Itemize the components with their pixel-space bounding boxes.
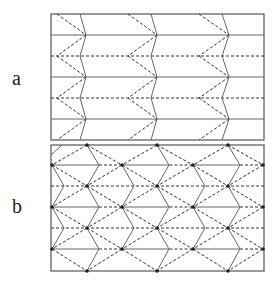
vertex-node <box>226 184 230 188</box>
valley-diagonal-crease <box>87 165 122 186</box>
mountain-chevron-crease <box>157 165 169 186</box>
panel-b-crease-pattern <box>50 143 265 273</box>
vertex-node <box>85 184 89 188</box>
valley-zigzag-crease <box>128 119 157 140</box>
valley-zigzag-crease <box>128 98 157 119</box>
valley-diagonal-crease <box>122 249 157 271</box>
vertex-node <box>120 247 124 251</box>
valley-diagonal-crease <box>52 228 87 249</box>
valley-diagonal-crease <box>193 207 228 228</box>
vertex-node <box>226 226 230 230</box>
mountain-chevron-crease <box>52 186 64 207</box>
valley-zigzag-crease <box>128 35 157 56</box>
valley-diagonal-crease <box>193 165 228 186</box>
valley-zigzag-crease <box>57 35 86 56</box>
vertex-node <box>85 143 89 147</box>
valley-diagonal-crease <box>122 207 157 228</box>
valley-diagonal-crease <box>87 207 122 228</box>
mountain-edge-crease <box>51 145 62 155</box>
valley-zigzag-crease <box>199 14 229 35</box>
valley-diagonal-crease <box>52 186 87 207</box>
valley-diagonal-crease <box>193 186 228 207</box>
mountain-zigzag-crease <box>222 56 229 77</box>
valley-diagonal-crease <box>193 249 228 271</box>
valley-diagonal-crease <box>122 186 157 207</box>
valley-diagonal-crease <box>122 145 157 165</box>
valley-diagonal-crease <box>228 249 263 271</box>
mountain-chevron-crease <box>87 165 99 186</box>
mountain-zigzag-crease <box>222 35 229 56</box>
valley-zigzag-crease <box>57 119 86 140</box>
vertex-node <box>191 205 195 209</box>
valley-diagonal-crease <box>122 228 157 249</box>
valley-diagonal-crease <box>87 228 122 249</box>
valley-zigzag-crease <box>199 77 229 98</box>
valley-diagonal-crease <box>157 249 193 271</box>
valley-diagonal-crease <box>228 228 263 249</box>
vertex-node <box>50 247 54 251</box>
valley-zigzag-crease <box>57 77 86 98</box>
valley-zigzag-crease <box>57 14 86 35</box>
vertex-node <box>155 226 159 230</box>
mountain-zigzag-crease <box>222 14 229 35</box>
valley-zigzag-crease <box>128 56 157 77</box>
vertex-node <box>85 226 89 230</box>
valley-diagonal-crease <box>228 145 263 165</box>
mountain-chevron-crease <box>122 186 134 207</box>
valley-zigzag-crease <box>199 56 229 77</box>
mountain-chevron-crease <box>228 165 240 186</box>
valley-diagonal-crease <box>193 228 228 249</box>
mountain-chevron-crease <box>228 249 240 271</box>
vertex-node <box>155 143 159 147</box>
panel-a-crease-pattern <box>51 14 264 140</box>
valley-zigzag-crease <box>128 77 157 98</box>
vertex-node <box>155 184 159 188</box>
valley-diagonal-crease <box>52 165 87 186</box>
vertex-node <box>191 163 195 167</box>
vertex-node <box>261 163 265 167</box>
valley-diagonal-crease <box>52 249 87 271</box>
mountain-chevron-crease <box>87 207 99 228</box>
mountain-chevron-crease <box>87 249 99 271</box>
valley-diagonal-crease <box>52 207 87 228</box>
vertex-node <box>50 163 54 167</box>
mountain-chevron-crease <box>193 186 205 207</box>
mountain-chevron-crease <box>157 207 169 228</box>
mountain-zigzag-crease <box>151 56 157 77</box>
valley-diagonal-crease <box>122 165 157 186</box>
valley-diagonal-crease <box>157 165 193 186</box>
mountain-zigzag-crease <box>80 98 86 119</box>
vertex-node <box>85 269 89 273</box>
valley-zigzag-crease <box>57 98 86 119</box>
crease-pattern-diagram <box>0 0 277 281</box>
valley-diagonal-crease <box>87 186 122 207</box>
valley-diagonal-crease <box>228 165 263 186</box>
valley-zigzag-crease <box>57 56 86 77</box>
vertex-node <box>226 269 230 273</box>
valley-diagonal-crease <box>87 249 122 271</box>
vertex-node <box>120 205 124 209</box>
vertex-node <box>155 269 159 273</box>
panel-b-frame <box>51 145 264 271</box>
valley-diagonal-crease <box>193 145 228 165</box>
valley-zigzag-crease <box>128 14 157 35</box>
valley-diagonal-crease <box>87 145 122 165</box>
mountain-chevron-crease <box>193 228 205 249</box>
valley-zigzag-crease <box>199 98 229 119</box>
valley-diagonal-crease <box>228 186 263 207</box>
mountain-chevron-crease <box>228 207 240 228</box>
vertex-node <box>191 247 195 251</box>
mountain-zigzag-crease <box>80 56 86 77</box>
vertex-node <box>261 247 265 251</box>
vertex-node <box>226 143 230 147</box>
valley-zigzag-crease <box>199 35 229 56</box>
mountain-zigzag-crease <box>151 14 157 35</box>
mountain-chevron-crease <box>52 228 64 249</box>
valley-diagonal-crease <box>157 207 193 228</box>
mountain-zigzag-crease <box>80 14 86 35</box>
mountain-zigzag-crease <box>222 98 229 119</box>
vertex-node <box>261 205 265 209</box>
valley-diagonal-crease <box>157 186 193 207</box>
valley-diagonal-crease <box>157 228 193 249</box>
vertex-node <box>50 205 54 209</box>
